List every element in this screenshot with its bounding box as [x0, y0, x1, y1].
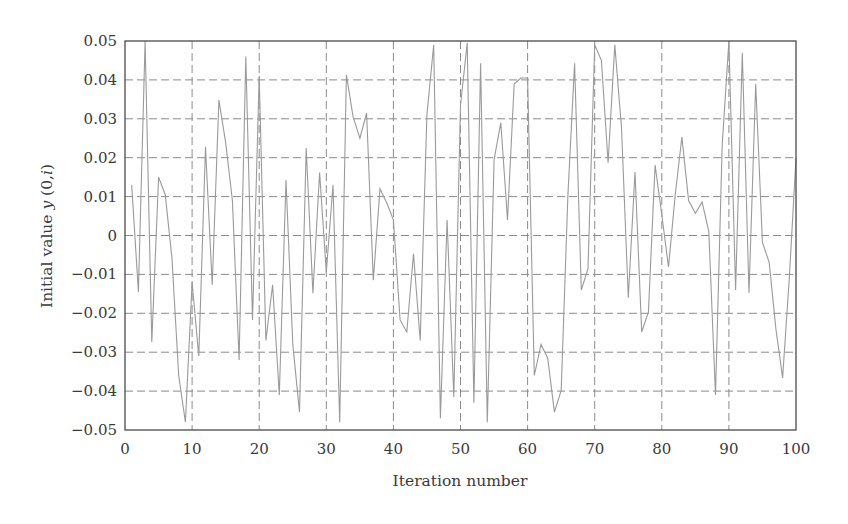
- y-tick-label: −0.02: [71, 304, 117, 322]
- y-tick-label: 0.03: [84, 110, 117, 128]
- y-tick-label: −0.03: [71, 343, 117, 361]
- data-series: [132, 41, 796, 422]
- x-tick-label: 70: [585, 440, 604, 458]
- x-tick-label: 20: [250, 440, 269, 458]
- x-tick-label: 60: [518, 440, 537, 458]
- x-axis-ticks: 0102030405060708090100: [120, 440, 810, 458]
- x-tick-label: 50: [451, 440, 470, 458]
- x-tick-label: 30: [317, 440, 336, 458]
- y-axis-ticks: 0.050.040.030.020.010−0.01−0.02−0.03−0.0…: [71, 32, 117, 439]
- line-chart: 0102030405060708090100 0.050.040.030.020…: [0, 0, 848, 524]
- x-tick-label: 90: [719, 440, 738, 458]
- y-tick-label: 0: [107, 227, 117, 245]
- y-tick-label: −0.05: [71, 421, 117, 439]
- x-tick-label: 80: [652, 440, 671, 458]
- x-tick-label: 100: [782, 440, 811, 458]
- x-tick-label: 40: [384, 440, 403, 458]
- x-tick-label: 10: [183, 440, 202, 458]
- y-tick-label: 0.05: [84, 32, 117, 50]
- x-axis-label: Iteration number: [393, 472, 528, 490]
- y-tick-label: −0.04: [71, 382, 117, 400]
- y-axis-label: Initial value y (0,i): [38, 164, 56, 308]
- y-tick-label: 0.04: [84, 71, 117, 89]
- series-line: [132, 41, 796, 422]
- y-tick-label: 0.01: [84, 188, 117, 206]
- x-tick-label: 0: [120, 440, 130, 458]
- y-tick-label: −0.01: [71, 265, 117, 283]
- grid-lines: [125, 41, 796, 430]
- y-tick-label: 0.02: [84, 149, 117, 167]
